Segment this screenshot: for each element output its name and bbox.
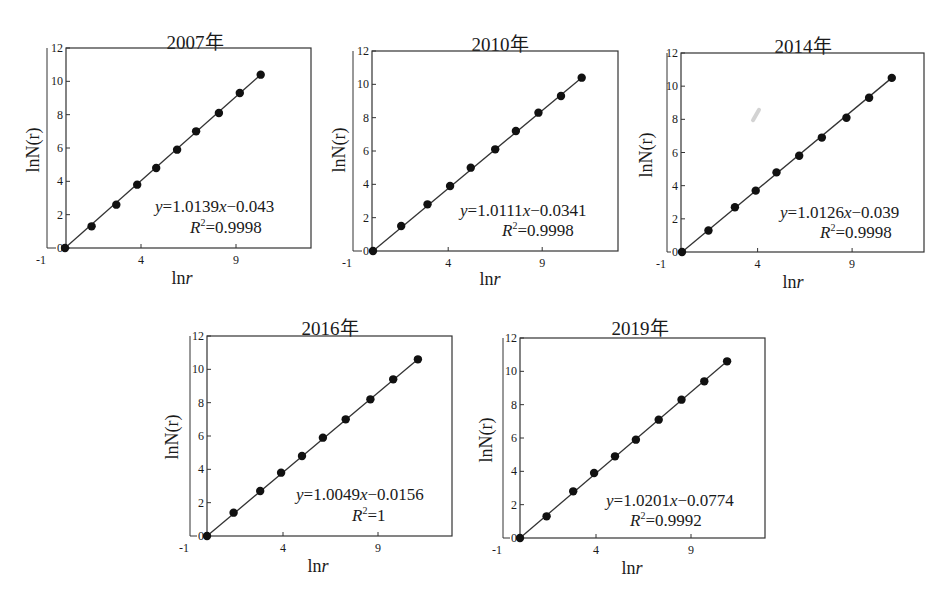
- x-tick-label: 4: [593, 543, 599, 557]
- data-point: [534, 108, 542, 116]
- y-tick-label: 0: [672, 245, 678, 259]
- data-point: [203, 532, 211, 540]
- y-tick-label: 6: [198, 429, 204, 443]
- y-tick-label: 8: [672, 112, 678, 126]
- y-tick-label: 4: [363, 177, 369, 191]
- x-tick-label: -1: [36, 253, 46, 267]
- x-tick-label: -1: [656, 257, 666, 271]
- data-point: [818, 133, 826, 141]
- plot-frame: [66, 48, 311, 248]
- y-tick-label: 6: [511, 431, 517, 445]
- data-point: [677, 395, 685, 403]
- data-point: [842, 113, 850, 121]
- data-point: [112, 200, 120, 208]
- y-tick-label: 10: [51, 74, 63, 88]
- y-tick-label: 8: [198, 396, 204, 410]
- data-point: [752, 186, 760, 194]
- y-tick-label: 12: [505, 331, 517, 345]
- data-point: [557, 92, 565, 100]
- y-tick-label: 2: [363, 211, 369, 225]
- x-tick-label: 4: [280, 541, 286, 555]
- y-tick-label: 6: [57, 141, 63, 155]
- x-tick-label: 9: [688, 543, 694, 557]
- data-point: [569, 487, 577, 495]
- x-tick-label: 9: [849, 257, 855, 271]
- data-point: [772, 168, 780, 176]
- data-point: [888, 74, 896, 82]
- y-tick-label: 12: [357, 44, 369, 58]
- data-point: [700, 377, 708, 385]
- data-point: [516, 534, 524, 542]
- y-tick-label: 6: [363, 144, 369, 158]
- plot-layer: 024681012-149024681012-149024681012-1490…: [0, 0, 947, 597]
- data-point: [257, 70, 265, 78]
- data-point: [192, 127, 200, 135]
- data-point: [236, 89, 244, 97]
- y-tick-label: 2: [198, 496, 204, 510]
- y-tick-label: 8: [511, 398, 517, 412]
- data-point: [366, 395, 374, 403]
- data-point: [655, 415, 663, 423]
- data-point: [542, 512, 550, 520]
- y-tick-label: 4: [672, 179, 678, 193]
- y-tick-label: 4: [198, 462, 204, 476]
- data-point: [795, 152, 803, 160]
- data-point: [723, 357, 731, 365]
- y-tick-label: 12: [51, 41, 63, 55]
- data-point: [512, 127, 520, 135]
- x-tick-label: 4: [445, 256, 451, 270]
- figure: 2007年 lnN(r) lnr y=1.0139x−0.043 R2=0.99…: [0, 0, 947, 597]
- data-point: [678, 248, 686, 256]
- data-point: [256, 487, 264, 495]
- trend-line: [65, 75, 261, 248]
- data-point: [467, 163, 475, 171]
- trend-line: [207, 359, 418, 536]
- data-point: [133, 180, 141, 188]
- data-point: [414, 355, 422, 363]
- y-tick-label: 2: [511, 498, 517, 512]
- x-tick-label: -1: [342, 256, 352, 270]
- x-tick-label: -1: [492, 543, 502, 557]
- x-tick-label: -1: [179, 541, 189, 555]
- trend-line: [520, 361, 727, 538]
- data-point: [61, 244, 69, 252]
- data-point: [229, 508, 237, 516]
- y-tick-label: 10: [357, 77, 369, 91]
- plot-frame: [520, 338, 765, 538]
- data-point: [704, 226, 712, 234]
- data-point: [611, 452, 619, 460]
- y-tick-label: 12: [192, 329, 204, 343]
- y-tick-label: 8: [57, 108, 63, 122]
- y-tick-label: 0: [363, 244, 369, 258]
- data-point: [319, 433, 327, 441]
- data-point: [342, 415, 350, 423]
- y-tick-label: 4: [57, 174, 63, 188]
- data-point: [152, 164, 160, 172]
- x-tick-label: 9: [539, 256, 545, 270]
- data-point: [865, 94, 873, 102]
- y-tick-label: 10: [505, 364, 517, 378]
- y-tick-label: 12: [666, 46, 678, 60]
- x-tick-label: 9: [375, 541, 381, 555]
- y-tick-label: 2: [57, 208, 63, 222]
- data-point: [446, 182, 454, 190]
- y-tick-label: 10: [192, 362, 204, 376]
- data-point: [87, 222, 95, 230]
- y-tick-label: 10: [666, 79, 678, 93]
- trend-line: [682, 78, 892, 252]
- data-point: [731, 203, 739, 211]
- data-point: [389, 375, 397, 383]
- x-tick-label: 4: [138, 253, 144, 267]
- data-point: [632, 435, 640, 443]
- x-tick-label: 9: [233, 253, 239, 267]
- data-point: [577, 73, 585, 81]
- data-point: [369, 247, 377, 255]
- y-tick-label: 2: [672, 212, 678, 226]
- data-point: [277, 468, 285, 476]
- data-point: [491, 145, 499, 153]
- y-tick-label: 6: [672, 146, 678, 160]
- data-point: [298, 452, 306, 460]
- data-point: [397, 222, 405, 230]
- data-point: [590, 469, 598, 477]
- data-point: [423, 200, 431, 208]
